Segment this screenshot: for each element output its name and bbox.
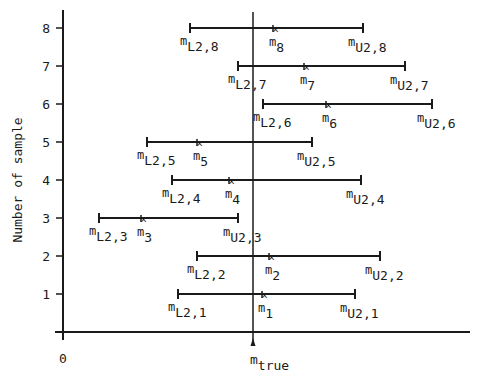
interval-sample-8: mL2,8m8^mU2,8 — [180, 23, 387, 55]
y-tick-label: 3 — [42, 211, 50, 226]
y-axis-label: Number of sample — [10, 117, 25, 242]
arrow-up-icon — [251, 338, 256, 346]
y-tick-label: 6 — [42, 97, 50, 112]
lower-bound-label: mL2,2 — [187, 262, 226, 282]
interval-sample-1: mL2,1m1^mU2,1 — [168, 289, 379, 321]
lower-bound-label: mL2,4 — [162, 186, 201, 206]
lower-bound-label: mL2,6 — [253, 110, 292, 130]
upper-bound-label: mU2,8 — [348, 35, 387, 55]
axes — [55, 10, 470, 340]
lower-bound-label: mL2,8 — [180, 34, 219, 54]
y-ticks: 12345678 — [42, 21, 63, 302]
y-tick-label: 2 — [42, 249, 50, 264]
interval-sample-2: mL2,2m2^mU2,2 — [187, 251, 404, 283]
origin-label: 0 — [59, 351, 67, 366]
upper-bound-label: mU2,3 — [223, 225, 262, 245]
upper-bound-label: mU2,1 — [340, 301, 379, 321]
y-tick-label: 1 — [42, 287, 50, 302]
interval-sample-5: mL2,5m5^mU2,5 — [137, 137, 336, 169]
lower-bound-label: mL2,1 — [168, 300, 207, 320]
interval-series: mL2,1m1^mU2,1mL2,2m2^mU2,2mL2,3m3^mU2,3m… — [89, 23, 456, 321]
y-tick-label: 8 — [42, 21, 50, 36]
y-tick-label: 7 — [42, 59, 50, 74]
hat-accent: ^ — [197, 142, 203, 153]
interval-sample-6: mL2,6m6^mU2,6 — [253, 99, 456, 131]
upper-bound-label: mU2,7 — [390, 73, 429, 93]
true-value-label: mtrue — [250, 352, 289, 373]
upper-bound-label: mU2,6 — [417, 111, 456, 131]
lower-bound-label: mL2,5 — [137, 148, 176, 168]
lower-bound-label: mL2,7 — [228, 72, 267, 92]
hat-accent: ^ — [141, 218, 147, 229]
hat-accent: ^ — [304, 66, 310, 77]
upper-bound-label: mU2,5 — [297, 149, 336, 169]
hat-accent: ^ — [229, 180, 235, 191]
lower-bound-label: mL2,3 — [89, 224, 128, 244]
hat-accent: ^ — [262, 294, 268, 305]
hat-accent: ^ — [326, 104, 332, 115]
interval-sample-4: mL2,4m4^mU2,4 — [162, 175, 385, 207]
hat-accent: ^ — [269, 256, 275, 267]
y-tick-label: 4 — [42, 173, 50, 188]
interval-sample-7: mL2,7m7^mU2,7 — [228, 61, 429, 93]
y-tick-label: 5 — [42, 135, 50, 150]
interval-sample-3: mL2,3m3^mU2,3 — [89, 213, 262, 245]
upper-bound-label: mU2,4 — [346, 187, 385, 207]
upper-bound-label: mU2,2 — [365, 263, 404, 283]
hat-accent: ^ — [273, 28, 279, 39]
confidence-interval-chart: 12345678 0 Number of sample mtrue mL2,1m… — [0, 0, 478, 386]
